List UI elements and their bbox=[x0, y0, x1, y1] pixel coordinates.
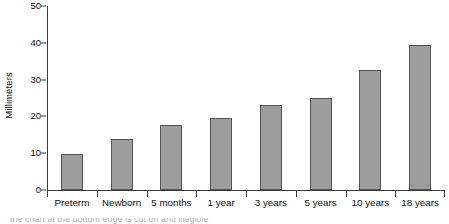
y-axis-tick-label: 50 bbox=[30, 1, 41, 11]
x-axis-tick-mark bbox=[147, 191, 148, 197]
y-axis-tick-label: 10 bbox=[30, 148, 41, 158]
bar-slot bbox=[296, 6, 346, 190]
y-axis-tick-mark bbox=[41, 116, 46, 117]
x-axis-tick-mark bbox=[196, 191, 197, 197]
cropped-caption-text: the chart at the bottom edge is cut off … bbox=[10, 218, 340, 224]
x-axis-tick-label: 18 years bbox=[401, 198, 439, 209]
x-axis-tick-label: 3 years bbox=[255, 198, 287, 209]
y-axis-title: Millimeters bbox=[0, 0, 16, 190]
bar bbox=[409, 45, 431, 190]
bar-slot bbox=[196, 6, 246, 190]
y-axis: 01020304050 bbox=[20, 0, 47, 198]
bar bbox=[160, 125, 182, 191]
y-axis-tick-mark bbox=[41, 79, 46, 80]
x-axis-tick-label: Newborn bbox=[102, 198, 141, 209]
y-axis-tick-label: 40 bbox=[30, 38, 41, 48]
bar-slot bbox=[246, 6, 296, 190]
x-axis-tick-mark bbox=[395, 191, 396, 197]
bar-chart-figure: Millimeters 01020304050 PretermNewborn5 … bbox=[0, 0, 449, 224]
y-axis-tick-label: 30 bbox=[30, 75, 41, 85]
bar bbox=[61, 154, 83, 190]
y-axis-tick-label: 20 bbox=[30, 112, 41, 122]
bar-slot bbox=[395, 6, 445, 190]
y-axis-tick-mark bbox=[41, 42, 46, 43]
x-axis-tick-label: 5 years bbox=[305, 198, 337, 209]
x-axis-tick-mark bbox=[246, 191, 247, 197]
x-axis-tick-label: Preterm bbox=[54, 198, 89, 209]
bar-slot bbox=[47, 6, 97, 190]
y-axis-tick-mark bbox=[41, 153, 46, 154]
x-axis-tick-label: 1 year bbox=[208, 198, 235, 209]
bar bbox=[111, 139, 133, 190]
bar-slot bbox=[97, 6, 147, 190]
plot-area bbox=[47, 6, 445, 190]
x-axis-tick-mark bbox=[97, 191, 98, 197]
x-axis-tick-label: 5 months bbox=[151, 198, 191, 209]
x-axis-tick-label: 10 years bbox=[352, 198, 390, 209]
x-axis-tick-mark bbox=[47, 191, 48, 197]
bar bbox=[210, 118, 232, 190]
y-axis-tick-mark bbox=[41, 190, 46, 191]
bar-slot bbox=[147, 6, 197, 190]
x-axis-tick-mark bbox=[346, 191, 347, 197]
bar bbox=[359, 70, 381, 190]
x-axis-tick-mark bbox=[296, 191, 297, 197]
y-axis-title-label: Millimeters bbox=[3, 72, 14, 119]
bar bbox=[260, 105, 282, 190]
cropped-caption: the chart at the bottom edge is cut off … bbox=[10, 218, 340, 224]
y-axis-tick-mark bbox=[41, 6, 46, 7]
x-axis-tick-mark bbox=[444, 191, 445, 197]
bar bbox=[310, 98, 332, 190]
bar-slot bbox=[346, 6, 396, 190]
